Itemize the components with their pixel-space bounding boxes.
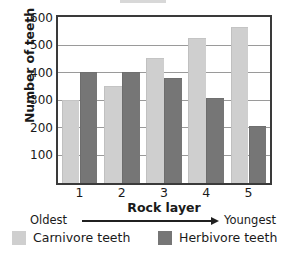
bar-herbivore-layer-1: [80, 72, 98, 183]
plot-area: [56, 15, 272, 185]
bars-group: [58, 17, 270, 183]
y-tick-label: 300: [20, 94, 53, 106]
bar-group: [185, 17, 227, 183]
bar-group: [58, 17, 100, 183]
x-tick-label: 4: [191, 186, 221, 200]
y-tick-label: 400: [20, 67, 53, 79]
oldest-label: Oldest: [30, 213, 67, 228]
y-tick-label: 500: [20, 39, 53, 51]
bar-herbivore-layer-5: [249, 126, 267, 183]
bar-carnivore-layer-4: [188, 38, 206, 183]
y-tick-label: 200: [20, 122, 53, 134]
y-axis-tick-labels: 100200300400500600: [20, 15, 53, 185]
x-tick-label: 1: [65, 186, 95, 200]
legend-item-carnivore: Carnivore teeth: [12, 231, 130, 245]
bar-chart-figure: Number of teeth 100200300400500600 12345…: [0, 0, 288, 260]
right-arrow-icon: [82, 220, 212, 222]
x-tick-label: 5: [233, 186, 263, 200]
x-tick-label: 3: [149, 186, 179, 200]
legend-label-herbivore: Herbivore teeth: [179, 231, 277, 245]
y-tick-label: 100: [20, 149, 53, 161]
bar-herbivore-layer-2: [122, 72, 140, 183]
bar-carnivore-layer-3: [146, 58, 164, 183]
bar-group: [100, 17, 142, 183]
bar-group: [227, 17, 269, 183]
age-direction-annotation: Oldest Youngest: [30, 213, 276, 229]
bar-carnivore-layer-5: [231, 27, 249, 183]
youngest-label: Youngest: [224, 213, 276, 228]
herbivore-swatch-icon: [158, 231, 172, 245]
legend-label-carnivore: Carnivore teeth: [33, 231, 130, 245]
cropped-title-sliver: [120, 0, 166, 3]
carnivore-swatch-icon: [12, 231, 26, 245]
bar-carnivore-layer-2: [104, 86, 122, 183]
bar-herbivore-layer-3: [164, 78, 182, 184]
y-tick-label: 600: [20, 12, 53, 24]
bar-group: [142, 17, 184, 183]
chart-legend: Carnivore teeth Herbivore teeth: [10, 231, 282, 253]
bar-carnivore-layer-1: [62, 100, 80, 184]
legend-item-herbivore: Herbivore teeth: [158, 231, 277, 245]
bar-herbivore-layer-4: [206, 98, 224, 183]
x-tick-label: 2: [107, 186, 137, 200]
